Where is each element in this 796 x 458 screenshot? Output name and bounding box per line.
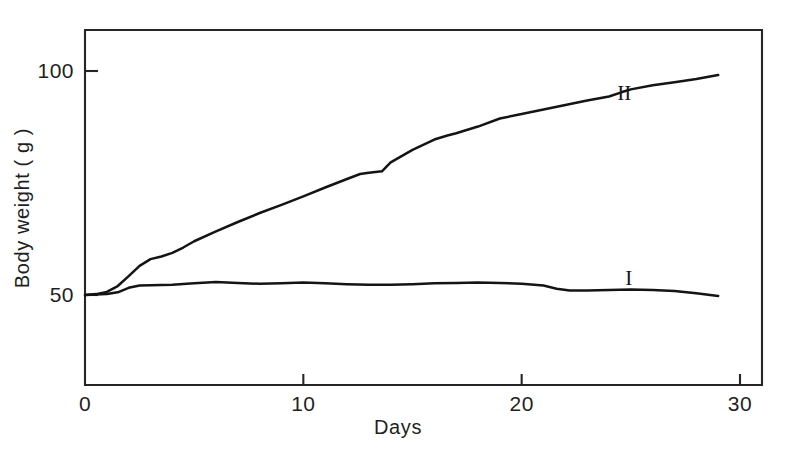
y-axis-tick-label: 50 xyxy=(50,283,74,307)
y-axis-tick-label: 100 xyxy=(37,59,74,83)
series-label-ii: II xyxy=(617,81,631,106)
series-line-i xyxy=(85,282,718,296)
y-axis-title: Body weight ( g ) xyxy=(11,128,34,288)
x-axis-tick-label: 0 xyxy=(79,392,91,416)
chart-figure: 0102030 50100 III Days Body weight ( g ) xyxy=(0,0,796,458)
y-axis-ticks xyxy=(85,71,98,295)
chart-plot-area xyxy=(0,0,796,458)
x-axis-tick-label: 20 xyxy=(509,392,533,416)
x-axis-tick-label: 10 xyxy=(291,392,315,416)
x-axis-tick-label: 30 xyxy=(728,392,752,416)
x-axis-title: Days xyxy=(374,416,422,439)
series-label-i: I xyxy=(625,265,632,290)
series-line-ii xyxy=(85,75,718,295)
x-axis-ticks xyxy=(303,374,740,385)
data-series-group xyxy=(85,75,718,296)
